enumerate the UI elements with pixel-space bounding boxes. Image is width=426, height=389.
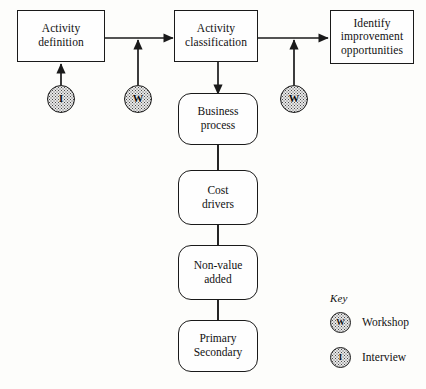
identify-line3: opportunities: [341, 44, 403, 56]
diagram-canvas: Activity definition Activity classificat…: [0, 0, 426, 389]
round-box-non-value-added-text: Non-value added: [194, 259, 243, 287]
activity-classification-line1: Activity: [197, 22, 236, 34]
key-workshop-glyph: W: [336, 318, 345, 327]
key-workshop-icon: W: [330, 312, 351, 333]
workshop-node-2-icon[interactable]: W: [280, 85, 308, 113]
round-box-cost-drivers-text: Cost drivers: [202, 184, 234, 212]
identify-line2: improvement: [341, 30, 403, 42]
non-value-added-line1: Non-value: [194, 259, 243, 271]
identify-line1: Identify: [353, 17, 390, 29]
process-box-activity-definition[interactable]: Activity definition: [17, 10, 105, 62]
cost-drivers-line1: Cost: [207, 184, 228, 196]
workshop-node-1-icon[interactable]: W: [124, 85, 152, 113]
round-box-primary-secondary-text: Primary Secondary: [194, 332, 243, 360]
activity-classification-line2: classification: [185, 36, 247, 48]
business-process-line1: Business: [198, 105, 239, 117]
round-box-business-process[interactable]: Business process: [178, 93, 258, 145]
activity-definition-line1: Activity: [42, 22, 81, 34]
round-box-primary-secondary[interactable]: Primary Secondary: [178, 320, 258, 372]
cost-drivers-line2: drivers: [202, 198, 234, 210]
round-box-non-value-added[interactable]: Non-value added: [178, 245, 258, 300]
round-box-business-process-text: Business process: [198, 105, 239, 133]
primary-secondary-line2: Secondary: [194, 346, 243, 358]
activity-definition-line2: definition: [38, 36, 84, 48]
process-box-activity-definition-text: Activity definition: [35, 22, 87, 49]
process-box-identify-improvement-opportunities-text: Identify improvement opportunities: [338, 17, 406, 58]
interview-node-glyph: I: [59, 94, 63, 105]
process-box-identify-improvement-opportunities[interactable]: Identify improvement opportunities: [330, 10, 414, 64]
process-box-activity-classification-text: Activity classification: [182, 22, 250, 49]
key-interview-label: Interview: [362, 351, 406, 363]
key-workshop-label: Workshop: [362, 316, 409, 328]
interview-node-icon[interactable]: I: [47, 85, 75, 113]
key-title: Key: [330, 292, 348, 304]
workshop-node-2-glyph: W: [289, 94, 300, 105]
key-interview-icon: I: [330, 347, 351, 368]
round-box-cost-drivers[interactable]: Cost drivers: [178, 170, 258, 225]
business-process-line2: process: [201, 119, 236, 131]
workshop-node-1-glyph: W: [133, 94, 144, 105]
key-interview-glyph: I: [339, 353, 342, 362]
non-value-added-line2: added: [204, 273, 231, 285]
process-box-activity-classification[interactable]: Activity classification: [174, 10, 258, 62]
primary-secondary-line1: Primary: [199, 332, 236, 344]
